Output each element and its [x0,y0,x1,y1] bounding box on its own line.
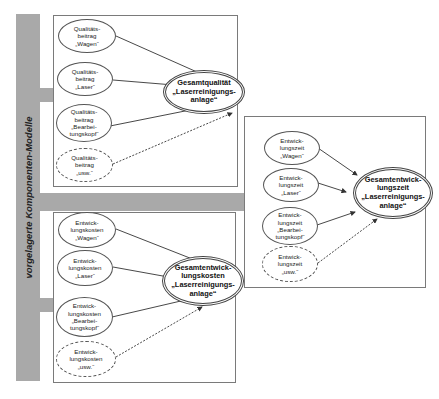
diagram-canvas: vorgelagerte Komponenten-Modelle [0,0,439,399]
node-time-usw: Entwick- lungszeit „usw.“ [262,246,318,282]
node-quality-usw: Qualitäts- beitrag „usw.“ [56,148,113,182]
node-cost-usw: Entwick- lungskosten „usw.“ [56,341,116,377]
node-time-bearbeitungskopf: Entwick- lungszeit „Bearbei- tungskopf“ [262,207,318,245]
node-total-quality: Gesamtqualität „Laserreinigungs- anlage“ [163,70,245,114]
node-cost-wagen: Entwick- lungskosten „Wagen“ [58,212,116,248]
node-total-dev-cost: Gesamtentwick- lungskosten „Laserreinigu… [162,256,244,306]
node-quality-bearbeitungskopf: Qualitäts- beitrag „Bearbei- tungskopf“ [56,104,112,142]
node-time-wagen: Entwick- lungszeit „Wagen“ [264,131,320,165]
node-quality-laser: Qualitäts- beitrag „Laser“ [57,62,113,96]
node-total-dev-time: Gesamtentwick- lungszeit „Laserreinigung… [353,167,433,219]
node-quality-wagen: Qualitäts- beitrag „Wagen“ [58,19,116,53]
node-cost-laser: Entwick- lungskosten „Laser“ [57,250,113,286]
node-time-laser: Entwick- lungszeit „Laser“ [263,168,319,202]
node-cost-bearbeitungskopf: Entwick- lungskosten „Bearbei- tungskopf… [56,297,113,337]
